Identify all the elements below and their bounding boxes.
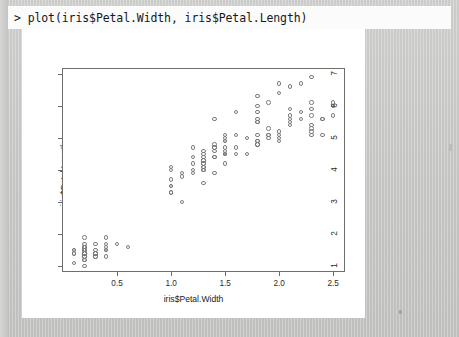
r-console-line[interactable]: > plot(iris$Petal.Width, iris$Petal.Leng… (8, 6, 451, 29)
data-point (104, 235, 108, 239)
data-point (299, 81, 303, 85)
data-point (212, 117, 216, 121)
x-axis-tick-label: 2.5 (327, 279, 338, 288)
data-point (288, 107, 292, 111)
graphics-device-page[interactable]: iris$Petal.Length iris$Petal.Width 0.51.… (22, 29, 365, 318)
data-point (93, 242, 97, 246)
data-point (245, 152, 249, 156)
data-point (234, 152, 238, 156)
y-axis-tick-label: 7 (331, 71, 340, 76)
data-point (255, 120, 259, 124)
y-axis-tick (58, 74, 63, 75)
data-point (212, 155, 216, 159)
data-point (212, 142, 216, 146)
y-axis-tick-label: 5 (331, 135, 340, 140)
data-point (82, 251, 86, 255)
data-point (309, 113, 313, 117)
desktop-speck (399, 310, 402, 314)
data-point (169, 177, 173, 181)
x-axis-tick (279, 271, 280, 276)
y-axis-tick-label: 6 (331, 103, 340, 108)
screen-root: > plot(iris$Petal.Width, iris$Petal.Leng… (0, 0, 459, 337)
data-point (191, 161, 195, 165)
data-point (115, 242, 119, 246)
x-axis-tick-label: 2.0 (273, 279, 284, 288)
data-point (223, 145, 227, 149)
data-point (234, 145, 238, 149)
data-point (277, 91, 281, 95)
data-point (331, 113, 335, 117)
data-point (277, 139, 281, 143)
data-point (191, 145, 195, 149)
y-axis-tick (58, 234, 63, 235)
data-point (180, 200, 184, 204)
data-point (201, 158, 205, 162)
data-point (288, 84, 292, 88)
data-point (255, 94, 259, 98)
data-point (212, 171, 216, 175)
y-axis-tick-label: 1 (331, 263, 340, 268)
data-point (245, 136, 249, 140)
data-point (266, 126, 270, 130)
x-axis-tick (333, 271, 334, 276)
x-axis-tick-label: 1.0 (165, 279, 176, 288)
x-axis-tick (117, 271, 118, 276)
y-axis-tick-label: 2 (331, 231, 340, 236)
data-point (309, 100, 313, 104)
y-axis-tick (58, 138, 63, 139)
data-point (82, 264, 86, 268)
console-command-text: > plot(iris$Petal.Width, iris$Petal.Leng… (14, 11, 307, 25)
data-point (180, 174, 184, 178)
data-point (255, 110, 259, 114)
x-axis-tick (171, 271, 172, 276)
x-axis-tick-label: 0.5 (111, 279, 122, 288)
data-point (299, 110, 303, 114)
data-point (320, 133, 324, 137)
data-point (72, 261, 76, 265)
scatter-points-layer (63, 69, 344, 271)
data-point (255, 104, 259, 108)
left-edge-band (0, 0, 8, 337)
data-point (277, 129, 281, 133)
y-axis-tick (58, 170, 63, 171)
plot-panel: 0.51.01.52.02.51234567 (62, 68, 345, 272)
data-point (223, 152, 227, 156)
data-point (255, 142, 259, 146)
data-point (266, 100, 270, 104)
data-point (277, 81, 281, 85)
data-point (309, 75, 313, 79)
data-point (104, 254, 108, 258)
data-point (299, 117, 303, 121)
desktop-speck-secondary (449, 144, 452, 151)
data-point (201, 165, 205, 169)
y-axis-tick-label: 3 (331, 199, 340, 204)
y-axis-tick (58, 106, 63, 107)
data-point (169, 184, 173, 188)
y-axis-tick (58, 202, 63, 203)
data-point (93, 251, 97, 255)
data-point (288, 123, 292, 127)
data-point (126, 245, 130, 249)
data-point (320, 117, 324, 121)
x-axis-title: iris$Petal.Width (164, 294, 224, 304)
data-point (82, 235, 86, 239)
data-point (201, 149, 205, 153)
data-point (72, 251, 76, 255)
data-point (288, 117, 292, 121)
data-point (309, 129, 313, 133)
data-point (309, 123, 313, 127)
data-point (309, 107, 313, 111)
data-point (201, 181, 205, 185)
data-point (191, 168, 195, 172)
data-point (266, 136, 270, 140)
y-axis-tick-label: 4 (331, 167, 340, 172)
data-point (223, 161, 227, 165)
data-point (255, 133, 259, 137)
y-axis-tick (58, 266, 63, 267)
data-point (191, 155, 195, 159)
x-axis-tick-label: 1.5 (219, 279, 230, 288)
x-axis-tick (225, 271, 226, 276)
data-point (234, 133, 238, 137)
data-point (234, 110, 238, 114)
data-point (104, 248, 108, 252)
